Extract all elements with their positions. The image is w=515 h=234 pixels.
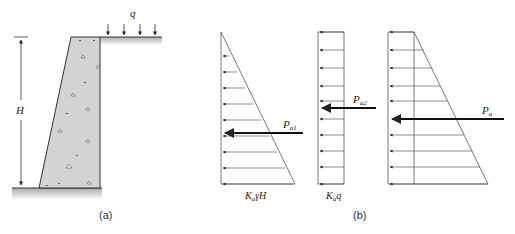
surcharge-arrows	[108, 24, 155, 35]
ground-backfill	[100, 37, 162, 45]
resultant-pa2-label: Pa2	[352, 93, 367, 107]
rectangular-pressure-diagram: Pa2 Kaq	[318, 32, 376, 203]
resultant-pa-label: Pa	[481, 104, 493, 118]
rectangle-base-label: Kaq	[325, 190, 341, 203]
ground-base	[12, 188, 102, 200]
triangular-pressure-diagram: Pa1 KaγH	[221, 32, 303, 203]
surcharge-label: q	[130, 7, 136, 19]
caption-a: (a)	[99, 209, 112, 221]
panel-a-retaining-wall: H q (a)	[12, 7, 162, 221]
combined-pressure-diagram: Pa	[388, 32, 504, 184]
triangle-outline	[221, 32, 295, 184]
retaining-wall-pressure-diagram: H q (a) Pa1 KaγH	[0, 0, 515, 234]
trapezoid-pressure-arrows	[390, 32, 488, 184]
caption-b: (b)	[353, 209, 366, 221]
resultant-pa1-label: Pa1	[282, 118, 297, 132]
triangle-base-label: KaγH	[244, 190, 267, 203]
trapezoid-outline	[388, 32, 488, 184]
height-label: H	[15, 104, 25, 116]
